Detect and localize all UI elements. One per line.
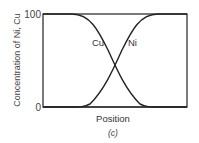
plot-frame [43,14,187,107]
cu-curve [43,14,187,107]
ytick-0: 0 [35,102,41,113]
ni-label: Ni [128,37,137,48]
cu-label: Cu [92,37,104,48]
caption: (c) [108,128,118,138]
ytick-100: 100 [24,9,41,20]
chart: 100 0 Concentration of Ni, Cu Cu Ni Posi… [0,0,199,143]
x-axis-label: Position [96,113,130,124]
ni-curve [43,14,187,107]
y-axis-label: Concentration of Ni, Cu [12,13,22,107]
